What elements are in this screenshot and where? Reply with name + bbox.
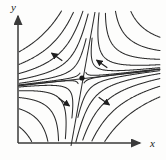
axes-group: y x <box>10 1 155 149</box>
trajectory-curve <box>19 11 61 52</box>
trajectory-curve <box>19 73 80 85</box>
phase-portrait-figure: y x <box>0 0 166 160</box>
phase-portrait-canvas: y x <box>0 0 166 160</box>
trajectory-curve <box>19 12 73 64</box>
flow-arrow-upper-left <box>52 53 63 60</box>
saddle-point-marker <box>79 75 84 80</box>
trajectory-curves <box>19 11 160 142</box>
trajectory-curve <box>19 11 83 73</box>
trajectory-curve <box>76 74 160 142</box>
flow-arrow-upper-right <box>97 60 108 67</box>
trajectory-curve <box>131 12 160 38</box>
trajectory-curve <box>83 79 160 140</box>
flow-arrow-lower-left <box>59 98 70 105</box>
trajectory-curve <box>19 109 48 142</box>
trajectory-curve <box>105 13 159 59</box>
y-axis-label: y <box>10 1 16 13</box>
trajectory-curve <box>19 98 58 141</box>
trajectory-curve <box>92 86 160 141</box>
trajectory-curve <box>19 127 31 142</box>
x-axis-label: x <box>149 137 155 149</box>
trajectory-curve <box>105 97 160 141</box>
trajectory-curve <box>116 11 160 50</box>
